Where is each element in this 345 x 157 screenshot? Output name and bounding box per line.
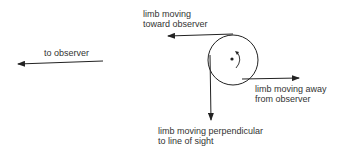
to-observer-arrow xyxy=(18,61,103,64)
label-line: limb moving away xyxy=(255,84,327,94)
rotation-direction-icon xyxy=(236,52,240,68)
label-line: from observer xyxy=(255,94,327,104)
label-line: to line of sight xyxy=(158,136,263,146)
label-toward-observer: limb moving toward observer xyxy=(143,9,208,29)
label-line: limb moving xyxy=(143,9,208,19)
label-line: limb moving perpendicular xyxy=(158,126,263,136)
center-dot xyxy=(230,57,233,60)
label-to-observer: to observer xyxy=(44,48,89,58)
label-perpendicular: limb moving perpendicular to line of sig… xyxy=(158,126,263,146)
label-away-observer: limb moving away from observer xyxy=(255,84,327,104)
perpendicular-arrow xyxy=(210,55,211,120)
label-line: toward observer xyxy=(143,19,208,29)
toward-observer-arrow xyxy=(168,34,233,36)
